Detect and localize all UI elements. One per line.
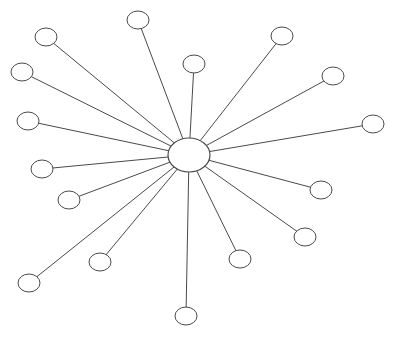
spoke-line-1: [138, 20, 189, 155]
spoke-line-10: [189, 155, 305, 237]
outer-node-7: [322, 67, 344, 85]
spoke-line-13: [100, 155, 189, 262]
outer-node-4: [17, 112, 39, 130]
outer-node-2: [35, 28, 57, 46]
outer-node-12: [175, 307, 197, 325]
outer-node-3: [11, 63, 33, 81]
outer-node-5: [183, 55, 205, 73]
outer-node-13: [89, 253, 111, 271]
outer-node-1: [127, 11, 149, 29]
spoke-line-12: [186, 155, 189, 316]
central-hub-node: [168, 138, 210, 172]
outer-node-10: [294, 228, 316, 246]
outer-node-11: [229, 250, 251, 268]
spoke-line-2: [46, 37, 189, 155]
spoke-line-6: [189, 36, 282, 155]
outer-node-14: [18, 274, 40, 292]
spoke-line-4: [28, 121, 189, 155]
outer-node-9: [310, 181, 332, 199]
spider-diagram: [0, 0, 395, 339]
outer-node-8: [362, 115, 384, 133]
spoke-line-16: [42, 155, 189, 169]
outer-node-15: [58, 191, 80, 209]
outer-node-16: [31, 160, 53, 178]
spoke-line-3: [22, 72, 189, 155]
outer-node-6: [271, 27, 293, 45]
